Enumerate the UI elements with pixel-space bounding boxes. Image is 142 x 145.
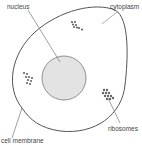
cell-diagram: nucleus cytoplasm ribosomes cell membran… — [0, 0, 142, 145]
label-cell-membrane: cell membrane — [1, 137, 44, 144]
label-ribosomes: ribosomes — [108, 125, 139, 132]
ribosomes-leader — [108, 98, 120, 123]
ribosome-cluster-left — [23, 72, 33, 85]
cell-membrane-leader — [12, 108, 22, 138]
cytoplasm-leader — [102, 12, 117, 24]
nucleus — [42, 56, 86, 100]
ribosome-cluster-top — [71, 21, 83, 31]
label-cytoplasm: cytoplasm — [110, 3, 139, 11]
label-nucleus: nucleus — [7, 3, 30, 10]
